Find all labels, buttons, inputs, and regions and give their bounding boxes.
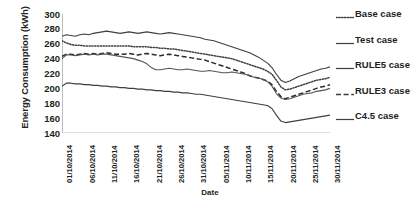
- legend-swatch-dashed-icon: [336, 91, 354, 98]
- legend-item[interactable]: Base case: [336, 10, 414, 34]
- y-tick-label: 300: [44, 9, 60, 20]
- series-line-base-case: [62, 41, 330, 90]
- y-tick-label: 220: [44, 68, 60, 79]
- x-tick-label: 15/11/2014: [266, 145, 275, 183]
- legend-label: RULE5 case: [355, 59, 413, 71]
- legend-item[interactable]: RULE5 case: [336, 61, 414, 85]
- x-tick-label: 06/10/2014: [88, 145, 97, 183]
- x-tick-label: 26/10/2014: [177, 145, 186, 183]
- x-tick-label: 01/10/2014: [65, 145, 74, 183]
- y-tick-label: 240: [44, 53, 60, 64]
- x-tick-label: 25/11/2014: [311, 145, 320, 183]
- legend-swatch-solid-icon: [336, 40, 354, 47]
- legend-label: Base case: [355, 8, 413, 20]
- y-tick-label: 180: [44, 98, 60, 109]
- y-tick-label: 280: [44, 23, 60, 34]
- x-tick-label: 31/10/2014: [199, 145, 208, 183]
- plot-area: [62, 14, 330, 133]
- y-axis-tick-labels: 140160180200220240260280300: [30, 8, 60, 140]
- legend-label: Test case: [355, 34, 413, 46]
- x-tick-label: 30/11/2014: [333, 145, 342, 183]
- legend-swatch-dotted-icon: [336, 14, 354, 21]
- x-axis-tick-labels: 01/10/201406/10/201411/10/201416/10/2014…: [62, 135, 330, 187]
- x-tick-label: 10/11/2014: [244, 145, 253, 183]
- y-axis-title: Energy Consumption (kWh): [19, 0, 30, 138]
- x-tick-label: 05/11/2014: [222, 145, 231, 183]
- series-line-rule3-case: [62, 53, 330, 99]
- legend-label: RULE3 case: [355, 85, 413, 97]
- chart-figure: Energy Consumption (kWh) 140160180200220…: [0, 0, 416, 207]
- series-line-test-case: [62, 31, 330, 82]
- series-line-rule5-case: [62, 54, 330, 99]
- legend-swatch-solid-icon: [336, 65, 354, 72]
- legend-item[interactable]: Test case: [336, 36, 414, 60]
- legend-label: C4.5 case: [355, 110, 413, 122]
- legend-swatch-solid-icon: [336, 116, 354, 123]
- y-tick-label: 200: [44, 83, 60, 94]
- y-tick-label: 260: [44, 38, 60, 49]
- y-tick-label: 140: [44, 128, 60, 139]
- legend-item[interactable]: RULE3 case: [336, 87, 414, 111]
- x-tick-label: 20/11/2014: [289, 145, 298, 183]
- legend-item[interactable]: C4.5 case: [336, 112, 414, 136]
- chart-canvas: [62, 14, 330, 133]
- x-axis-title: Date: [150, 188, 270, 197]
- x-tick-label: 16/10/2014: [132, 145, 141, 183]
- y-tick-label: 160: [44, 113, 60, 124]
- x-tick-label: 21/10/2014: [155, 145, 164, 183]
- x-tick-label: 11/10/2014: [110, 145, 119, 183]
